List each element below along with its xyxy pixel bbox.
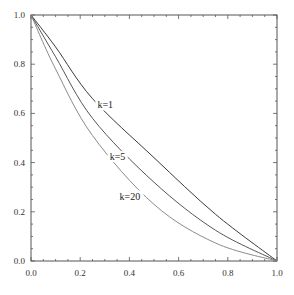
y-tick-label: 0.2 (14, 207, 25, 217)
x-tick-labels: 0.00.20.40.60.81.0 (25, 268, 283, 278)
curve-label-k20: k=20 (120, 191, 141, 202)
curves (31, 15, 277, 261)
y-tick-label: 0.0 (14, 256, 26, 266)
curve-k5 (31, 15, 277, 261)
x-tick-label: 1.0 (271, 268, 283, 278)
x-tick-label: 0.4 (124, 268, 136, 278)
x-tick-label: 0.6 (173, 268, 185, 278)
plot-border (31, 15, 277, 261)
y-tick-label: 1.0 (14, 10, 26, 20)
y-tick-label: 0.4 (14, 158, 26, 168)
x-tick-label: 0.0 (25, 268, 37, 278)
y-tick-label: 0.8 (14, 59, 26, 69)
curve-labels: k=1k=5k=20 (95, 99, 143, 201)
curve-label-k1: k=1 (97, 99, 113, 110)
curve-k1 (31, 15, 277, 261)
y-tick-labels: 0.00.20.40.60.81.0 (14, 10, 26, 266)
curve-label-k5: k=5 (110, 151, 126, 162)
y-tick-label: 0.6 (14, 108, 26, 118)
curve-k20 (31, 15, 277, 261)
plot-frame (31, 15, 277, 261)
axis-ticks (31, 15, 277, 261)
x-tick-label: 0.2 (75, 268, 86, 278)
x-tick-label: 0.8 (222, 268, 234, 278)
line-chart: 0.00.20.40.60.81.0 0.00.20.40.60.81.0 k=… (0, 0, 294, 295)
